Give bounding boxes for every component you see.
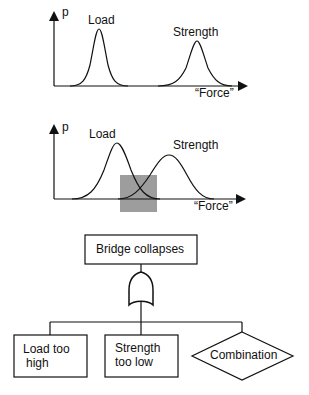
child-strength-line2: too low <box>115 355 160 369</box>
child-load-line2: high <box>23 356 70 370</box>
chart1-y-arrow-icon <box>49 11 59 21</box>
chart2-x-label: “Force” <box>194 200 233 213</box>
child-load-line1: Load too <box>23 342 70 356</box>
chart1-load-label: Load <box>88 14 115 27</box>
top-event-label: Bridge collapses <box>96 243 184 256</box>
child-strength-label: Strength too low <box>115 341 160 369</box>
chart2-overlap-region <box>120 175 157 212</box>
child-strength-line1: Strength <box>115 341 160 355</box>
chart2-y-arrow-icon <box>49 124 59 134</box>
chart1-strength-curve <box>158 41 232 86</box>
chart1-y-label: p <box>62 6 69 19</box>
child-combination-label: Combination <box>210 349 277 362</box>
diagram-canvas <box>0 0 309 395</box>
chart1-x-label: “Force” <box>195 87 234 100</box>
chart2-y-label: p <box>62 121 69 134</box>
chart2-x-arrow-icon <box>236 194 246 204</box>
chart1-strength-label: Strength <box>173 26 218 39</box>
or-gate-icon <box>129 272 153 305</box>
chart2-strength-label: Strength <box>173 139 218 152</box>
child-load-label: Load too high <box>23 342 70 370</box>
chart2-load-label: Load <box>89 128 116 141</box>
chart1-x-arrow-icon <box>238 81 248 91</box>
chart1-load-curve <box>70 29 128 86</box>
